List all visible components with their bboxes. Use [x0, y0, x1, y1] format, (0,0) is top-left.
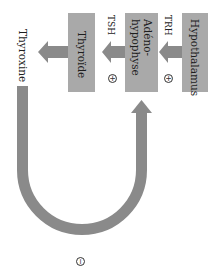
thyroxine-arrow: [38, 41, 68, 63]
trh-arrow: [159, 41, 182, 63]
feedback-loop: [23, 86, 142, 230]
adenohypophyse-label-line2: hypophyse: [130, 19, 141, 76]
adenohypophyse-box: Adéno- hypophyse: [125, 13, 158, 92]
thyroide-label: Thyroïde: [76, 31, 87, 78]
hypothalamus-label: Hypothalamus: [189, 19, 200, 96]
thyroide-box: Thyroïde: [68, 13, 95, 92]
trh-label: TRH: [163, 15, 172, 36]
feedback-arrowhead: [131, 100, 152, 113]
stimulation-icon-trh: +: [164, 74, 173, 83]
thyroxine-label: Thyroxine: [17, 29, 28, 82]
inhibition-icon: −: [76, 257, 85, 266]
adenohypophyse-label-line1: Adéno-: [142, 19, 153, 56]
tsh-arrow: [102, 41, 125, 63]
stimulation-icon-tsh: +: [108, 74, 117, 83]
hypothalamus-box: Hypothalamus: [182, 13, 208, 92]
tsh-label: TSH: [106, 15, 115, 35]
